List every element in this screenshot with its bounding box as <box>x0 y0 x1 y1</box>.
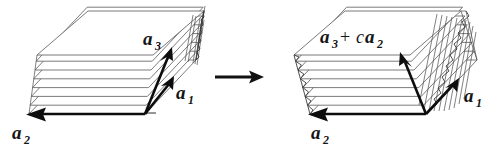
label-a3-subscript: 3 <box>154 39 161 53</box>
label-a2-subscript: 2 <box>23 133 30 147</box>
label-a2-subscript: 2 <box>322 133 329 147</box>
label-a2-right: a 2 <box>311 122 329 147</box>
label-a1-right: a 1 <box>464 85 482 110</box>
label-a2-left: a 2 <box>12 122 30 147</box>
figure-container: a 3 a 1 a 2 <box>0 0 501 147</box>
label-a1-left: a 1 <box>176 82 194 107</box>
label-plus-sign: + <box>340 27 350 47</box>
label-a1-base: a <box>176 82 186 103</box>
label-a3-base: a <box>320 26 330 47</box>
label-a2-subscript: 2 <box>376 37 383 51</box>
transform-arrow <box>215 71 264 84</box>
label-a2-base: a <box>311 122 321 143</box>
label-scalar-c: c <box>356 27 364 47</box>
label-a3-subscript: 3 <box>331 37 338 51</box>
right-panel: a 3 + c a 2 a 1 a 2 <box>294 7 482 147</box>
label-a2-base: a <box>365 26 375 47</box>
label-a1-base: a <box>464 85 474 106</box>
left-panel: a 3 a 1 a 2 <box>12 6 205 147</box>
lattice-shear-figure: a 3 a 1 a 2 <box>0 0 501 147</box>
label-a3-base: a <box>143 28 153 49</box>
right-sheet-stack <box>294 7 477 114</box>
label-a1-subscript: 1 <box>188 93 194 107</box>
label-a2-base: a <box>12 122 22 143</box>
label-a1-subscript: 1 <box>476 96 482 110</box>
